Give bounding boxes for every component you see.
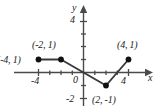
data-point-marker bbox=[58, 57, 64, 63]
data-point-marker bbox=[36, 57, 42, 63]
data-point-marker bbox=[126, 57, 132, 63]
coordinate-plane bbox=[0, 0, 161, 112]
y-axis-label: y bbox=[72, 2, 76, 13]
x-tick-label-4: 4 bbox=[121, 75, 126, 86]
point-label-4-1: (4, 1) bbox=[117, 39, 137, 50]
point-label-neg4-1: (-4, 1) bbox=[0, 54, 21, 65]
data-point-marker bbox=[103, 83, 109, 89]
point-label-neg2-1: (-2, 1) bbox=[32, 39, 56, 50]
y-tick-label-neg2: -2 bbox=[66, 93, 74, 104]
y-axis-arrow-icon bbox=[80, 5, 87, 13]
graph-figure: (-4, 1) (-2, 1) (4, 1) (2, -1) -4 4 0 4 … bbox=[0, 0, 161, 112]
point-label-2-neg1: (2, -1) bbox=[92, 94, 116, 105]
y-tick-label-4: 4 bbox=[70, 14, 75, 25]
x-axis-label: x bbox=[148, 72, 152, 83]
x-tick-label-neg4: -4 bbox=[31, 75, 39, 86]
origin-label: 0 bbox=[73, 74, 78, 85]
